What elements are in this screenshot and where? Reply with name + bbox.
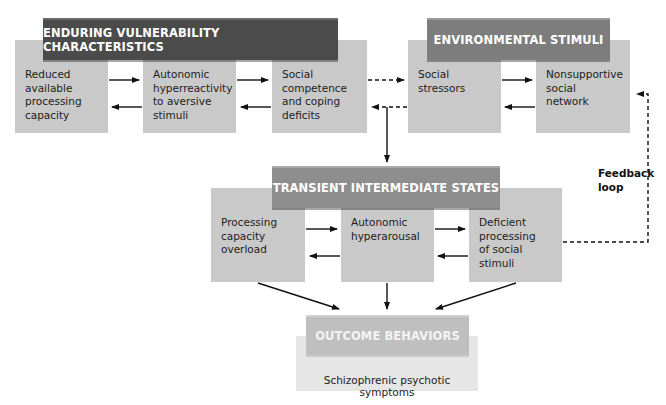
connector-arrows — [0, 0, 666, 405]
